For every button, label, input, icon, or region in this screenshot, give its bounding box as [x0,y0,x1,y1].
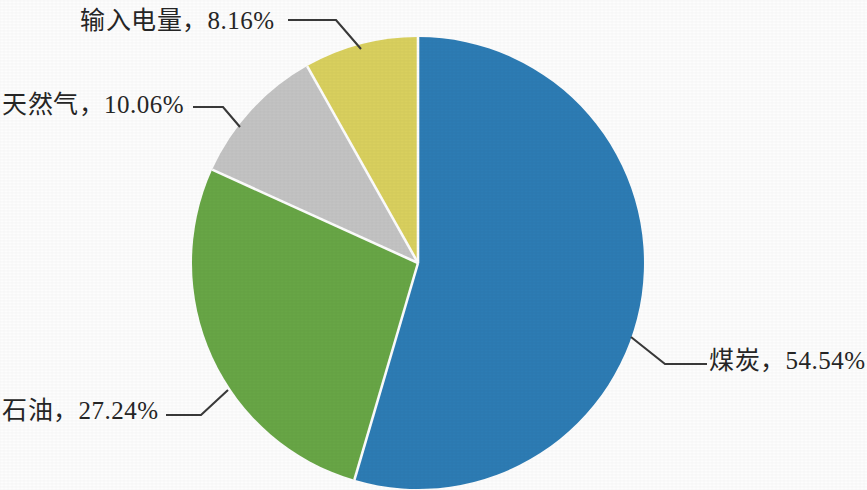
pie-label-gas: 天然气，10.06% [2,92,184,117]
leader-line-oil [166,390,228,415]
pie-chart-figure: 输入电量，8.16% 天然气，10.06% 石油，27.24% 煤炭，54.54… [0,0,867,490]
leader-line-coal [631,337,707,364]
pie-label-power: 输入电量，8.16% [80,8,275,33]
pie-label-coal: 煤炭，54.54% [709,348,866,373]
leader-line-gas [193,107,240,127]
pie-label-oil: 石油，27.24% [2,398,159,423]
leader-line-power [288,20,361,49]
